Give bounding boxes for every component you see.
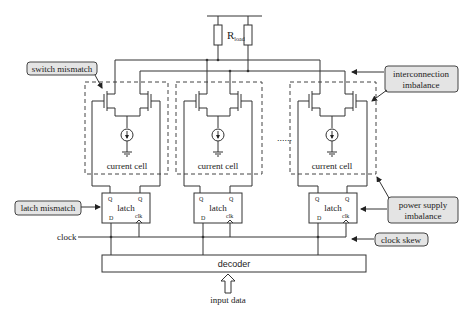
svg-text:imbalance: imbalance — [405, 211, 442, 221]
clock-label: clock — [57, 232, 77, 242]
current-steering-dac-diagram: Rload current cell — [0, 0, 468, 317]
svg-text:Q: Q — [315, 196, 320, 202]
callout-latch-mismatch: latch mismatch — [15, 201, 100, 215]
input-data-label: input data — [210, 295, 246, 305]
svg-text:power supply: power supply — [399, 200, 448, 210]
current-cell-2: current cell — [176, 59, 262, 193]
latch-1: Q Q latch D clk — [102, 193, 150, 255]
svg-text:clk: clk — [342, 213, 349, 219]
svg-text:current cell: current cell — [107, 161, 148, 171]
decoder: decoder input data — [102, 255, 366, 305]
latch-3: Q Q latch D clk — [309, 193, 357, 255]
svg-text:Q: Q — [108, 196, 113, 202]
decoder-label: decoder — [218, 259, 251, 269]
load-resistors: Rload — [207, 16, 262, 71]
svg-text:current cell: current cell — [198, 161, 239, 171]
clock-line: clock — [57, 232, 346, 242]
svg-text:switch mismatch: switch mismatch — [32, 64, 93, 74]
callout-clock-skew: clock skew — [352, 233, 428, 246]
rload-label: Rload — [227, 29, 245, 42]
svg-text:current cell: current cell — [312, 161, 353, 171]
svg-text:Q: Q — [199, 196, 204, 202]
svg-text:latch: latch — [209, 203, 227, 213]
svg-text:latch: latch — [324, 203, 342, 213]
current-cell-3: current cell — [290, 60, 376, 193]
svg-text:clk: clk — [135, 213, 142, 219]
svg-text:latch mismatch: latch mismatch — [21, 203, 76, 213]
svg-text:Q: Q — [229, 196, 234, 202]
svg-text:clk: clk — [226, 213, 233, 219]
svg-text:clock skew: clock skew — [381, 235, 422, 245]
svg-text:D: D — [201, 215, 206, 221]
svg-text:imbalance: imbalance — [403, 80, 440, 90]
svg-text:interconnection: interconnection — [393, 69, 449, 79]
svg-text:Q: Q — [345, 196, 350, 202]
svg-text:latch: latch — [117, 203, 135, 213]
callout-switch-mismatch: switch mismatch — [27, 62, 102, 88]
svg-text:D: D — [109, 215, 114, 221]
callout-power-supply-imbalance: power supply imbalance — [361, 177, 458, 223]
callout-interconnection-imbalance: interconnection imbalance — [352, 66, 458, 101]
svg-text:Q: Q — [138, 196, 143, 202]
latch-2: Q Q latch D clk — [194, 193, 242, 255]
svg-text:D: D — [317, 215, 322, 221]
